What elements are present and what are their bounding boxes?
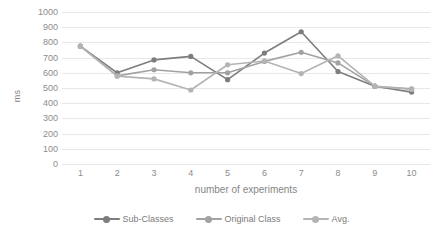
x-axis-tick-label: 10	[407, 168, 417, 178]
legend-marker-icon	[303, 215, 329, 223]
series-line	[80, 32, 411, 92]
data-point	[299, 29, 304, 34]
x-axis-tick-label: 8	[335, 168, 340, 178]
y-axis-tick-label: 700	[22, 53, 58, 62]
data-point	[188, 54, 193, 59]
y-axis-tick-label: 400	[22, 99, 58, 108]
legend-item[interactable]: Original Class	[196, 214, 281, 224]
plot-area	[62, 12, 430, 164]
data-point	[225, 70, 230, 75]
y-axis-tick-label: 300	[22, 114, 58, 123]
legend-label: Original Class	[224, 214, 281, 224]
data-point	[151, 57, 156, 62]
chart-legend: Sub-ClassesOriginal ClassAvg.	[0, 214, 443, 224]
x-axis-tick-label: 4	[188, 168, 193, 178]
data-point	[262, 58, 267, 63]
data-point	[299, 71, 304, 76]
data-point	[188, 70, 193, 75]
x-axis-tick-labels: 12345678910	[62, 168, 430, 182]
y-axis-tick-labels: 01002003004005006007008009001000	[22, 12, 58, 164]
legend-marker-icon	[196, 215, 222, 223]
data-point	[78, 44, 83, 49]
series-plot	[62, 12, 430, 164]
data-point	[372, 84, 377, 89]
data-point	[188, 87, 193, 92]
y-axis-title-label: ms	[12, 90, 22, 102]
y-axis-tick-label: 1000	[22, 8, 58, 17]
data-point	[115, 74, 120, 79]
x-axis-title: number of experiments	[62, 184, 430, 195]
y-axis-tick-label: 800	[22, 38, 58, 47]
legend-label: Avg.	[331, 214, 350, 224]
y-axis-tick-label: 500	[22, 84, 58, 93]
data-point	[335, 60, 340, 65]
line-chart: ms 01002003004005006007008009001000 1234…	[0, 0, 443, 248]
series-sub-classes	[78, 29, 414, 95]
data-point	[151, 67, 156, 72]
data-point	[225, 62, 230, 67]
x-axis-tick-label: 9	[372, 168, 377, 178]
y-axis-tick-label: 100	[22, 144, 58, 153]
y-axis-tick-label: 600	[22, 68, 58, 77]
data-point	[225, 77, 230, 82]
x-axis-tick-label: 6	[262, 168, 267, 178]
data-point	[409, 87, 414, 92]
legend-marker-icon	[94, 215, 120, 223]
legend-item[interactable]: Sub-Classes	[94, 214, 174, 224]
x-axis-tick-label: 5	[225, 168, 230, 178]
data-point	[335, 53, 340, 58]
x-axis-tick-label: 3	[151, 168, 156, 178]
data-point	[299, 50, 304, 55]
data-point	[335, 69, 340, 74]
y-axis-tick-label: 900	[22, 23, 58, 32]
y-axis-tick-label: 0	[22, 160, 58, 169]
legend-label: Sub-Classes	[122, 214, 174, 224]
data-point	[262, 50, 267, 55]
legend-item[interactable]: Avg.	[303, 214, 350, 224]
gridline	[62, 164, 430, 165]
x-axis-tick-label: 1	[78, 168, 83, 178]
x-axis-tick-label: 7	[299, 168, 304, 178]
data-point	[151, 76, 156, 81]
x-axis-tick-label: 2	[115, 168, 120, 178]
series-original-class	[78, 44, 414, 92]
y-axis-tick-label: 200	[22, 129, 58, 138]
